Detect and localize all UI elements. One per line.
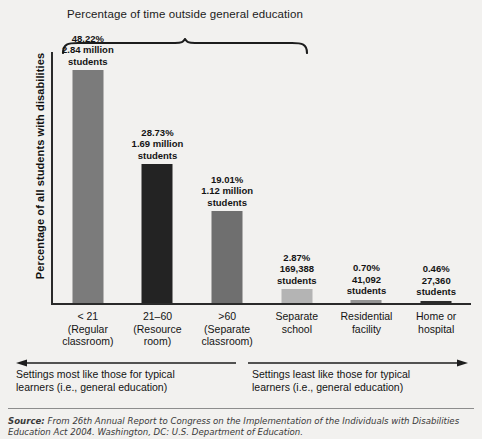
bar-rect — [142, 164, 173, 303]
x-tick-line1: Residential — [332, 310, 402, 323]
note-left-line1: Settings most like those for typical — [16, 368, 226, 381]
x-tick-line3: classroom) — [192, 335, 262, 348]
bar-value-label: 48.22% 2.84 million students — [49, 33, 127, 68]
bar-count-line1: 41,092 — [327, 274, 405, 286]
bar-count-line2: students — [118, 150, 196, 162]
x-tick-line3: room) — [123, 335, 193, 348]
x-tick-line2: (Separate — [192, 323, 262, 336]
bar-slot: 28.73% 1.69 million students — [123, 52, 193, 303]
bar-rect — [212, 211, 243, 303]
bar-slot: 0.46% 27,360 students — [401, 52, 471, 303]
x-tick-label: Separate school — [262, 310, 332, 335]
bar-count-line2: students — [327, 285, 405, 297]
x-tick-line1: Separate — [262, 310, 332, 323]
plot-area: 48.22% 2.84 million students 28.73% 1.69… — [53, 52, 471, 303]
x-tick-label: < 21 (Regular classroom) — [53, 310, 123, 348]
x-tick-line2: (Resource — [123, 323, 193, 336]
bar-count-line1: 2.84 million — [49, 44, 127, 56]
x-tick-line1: Home or — [401, 310, 471, 323]
x-tick-line2: facility — [332, 323, 402, 336]
bar-count-line1: 27,360 — [397, 275, 475, 287]
bar-value-label: 2.87% 169,388 students — [258, 252, 336, 287]
bar-percent: 48.22% — [49, 33, 127, 45]
bar-count-line1: 169,388 — [258, 263, 336, 275]
x-axis-line — [51, 303, 471, 305]
bar-rect — [351, 300, 382, 303]
bar-value-label: 28.73% 1.69 million students — [118, 127, 196, 162]
note-right-line2: learners (i.e., general education) — [252, 381, 462, 394]
bar-rect — [72, 70, 103, 303]
source-caption: Source: From 26th Annual Report to Congr… — [8, 416, 476, 437]
x-tick-label: Residential facility — [332, 310, 402, 335]
bar-value-label: 19.01% 1.12 million students — [188, 174, 266, 209]
bar-count-line2: students — [397, 286, 475, 298]
bar-percent: 2.87% — [258, 252, 336, 264]
x-tick-line1: >60 — [192, 310, 262, 323]
x-tick-label: 21–60 (Resource room) — [123, 310, 193, 348]
bar-percent: 0.46% — [397, 263, 475, 275]
source-divider — [8, 408, 474, 409]
bar-count-line2: students — [188, 197, 266, 209]
bar-rect — [421, 301, 452, 303]
bar-value-label: 0.46% 27,360 students — [397, 263, 475, 298]
bar-slot: 19.01% 1.12 million students — [192, 52, 262, 303]
x-tick-line2: hospital — [401, 323, 471, 336]
x-tick-line1: < 21 — [53, 310, 123, 323]
bar-slot: 2.87% 169,388 students — [262, 52, 332, 303]
bar-count-line1: 1.69 million — [118, 138, 196, 150]
bar-percent: 28.73% — [118, 127, 196, 139]
x-tick-label: >60 (Separate classroom) — [192, 310, 262, 348]
source-lead: Source: — [8, 416, 45, 426]
bar-slot: 0.70% 41,092 students — [332, 52, 402, 303]
x-axis-tick-labels: < 21 (Regular classroom) 21–60 (Resource… — [53, 310, 471, 356]
y-axis-label: Percentage of all students with disabili… — [34, 41, 46, 291]
note-left: Settings most like those for typical lea… — [16, 368, 226, 394]
bracket-title-line1: Percentage of time — [67, 8, 165, 20]
figure-bar-chart: Percentage of time outside general educa… — [0, 0, 482, 439]
bar-rect — [281, 289, 312, 303]
bar-percent: 0.70% — [327, 262, 405, 274]
x-tick-line2: school — [262, 323, 332, 336]
note-left-line2: learners (i.e., general education) — [16, 381, 226, 394]
x-tick-label: Home or hospital — [401, 310, 471, 335]
bar-count-line1: 1.12 million — [188, 185, 266, 197]
bracket-title: Percentage of time outside general educa… — [60, 8, 310, 22]
x-tick-line2: (Regular — [53, 323, 123, 336]
x-tick-line3: classroom) — [53, 335, 123, 348]
source-line2-text: Education Act 2004. Washington, DC: U.S.… — [8, 427, 476, 438]
note-right: Settings least like those for typical le… — [252, 368, 462, 394]
bar-percent: 19.01% — [188, 174, 266, 186]
bar-value-label: 0.70% 41,092 students — [327, 262, 405, 297]
bar-count-line2: students — [258, 275, 336, 287]
bracket-title-line2: outside general education — [169, 8, 303, 20]
bar-count-line2: students — [49, 56, 127, 68]
note-right-line1: Settings least like those for typical — [252, 368, 462, 381]
x-tick-line1: 21–60 — [123, 310, 193, 323]
source-line1: Source: From 26th Annual Report to Congr… — [8, 416, 476, 427]
bar-slot: 48.22% 2.84 million students — [53, 52, 123, 303]
source-line1-text: From 26th Annual Report to Congress on t… — [45, 416, 459, 426]
